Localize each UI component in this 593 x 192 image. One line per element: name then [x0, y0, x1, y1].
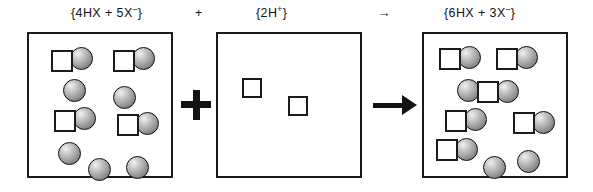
reactant-1-label: {4HX + 5X–} [71, 6, 142, 20]
reactant-box-2 [216, 32, 362, 178]
hydrogen-cation-square [242, 78, 262, 98]
hydrogen-square [477, 81, 499, 103]
reactant-box-1 [27, 32, 173, 178]
reactant-1-label-close: } [138, 6, 143, 20]
hydrogen-square [439, 48, 461, 70]
halide-anion-sphere [88, 158, 111, 181]
product-box-3 [422, 32, 568, 178]
halide-sphere [455, 138, 478, 161]
reactant-2-label-close: } [283, 6, 288, 20]
product-label: {6HX + 3X–} [444, 6, 515, 20]
hydrogen-square [496, 48, 518, 70]
equation-arrow-operator: → [378, 6, 391, 20]
halide-sphere [136, 112, 159, 135]
hydrogen-square [436, 139, 458, 161]
reaction-arrow [373, 92, 417, 118]
equation-plus-operator: + [195, 6, 202, 20]
halide-anion-sphere [517, 150, 540, 173]
reactant-2-label-text: {2H [256, 6, 277, 20]
halide-sphere [132, 47, 155, 70]
halide-sphere [73, 107, 96, 130]
halide-anion-sphere [58, 142, 81, 165]
halide-anion-sphere [483, 156, 506, 179]
halide-sphere [458, 46, 481, 69]
halide-anion-sphere [113, 86, 136, 109]
halide-anion-sphere [126, 156, 149, 179]
halide-sphere [532, 111, 555, 134]
product-label-text: {6HX + 3X [444, 6, 506, 20]
reactant-1-label-text: {4HX + 5X [71, 6, 133, 20]
hydrogen-square [113, 50, 135, 72]
halide-anion-sphere [63, 79, 86, 102]
halide-sphere [70, 47, 93, 70]
hydrogen-square [445, 110, 467, 132]
halide-sphere [464, 108, 487, 131]
hydrogen-square [117, 114, 139, 136]
plus-sign [181, 90, 211, 120]
hydrogen-square [513, 112, 535, 134]
halide-sphere [515, 46, 538, 69]
hydrogen-square [51, 50, 73, 72]
halide-sphere [496, 80, 519, 103]
product-label-close: } [511, 6, 516, 20]
hydrogen-square [54, 110, 76, 132]
reactant-2-label: {2H+} [256, 6, 287, 20]
hydrogen-cation-square [288, 96, 308, 116]
arrow-head [402, 95, 417, 115]
